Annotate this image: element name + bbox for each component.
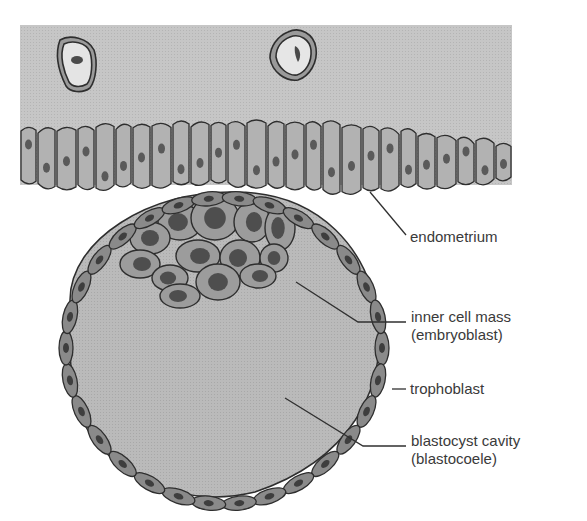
epithelial-cell <box>78 126 94 189</box>
epithelial-cell <box>323 121 340 194</box>
epithelial-cell <box>21 127 36 184</box>
trophoblast-cell <box>375 331 389 365</box>
label-endometrium: endometrium <box>410 228 498 246</box>
epithelial-cell <box>363 126 379 190</box>
epithelial-cell <box>268 121 284 188</box>
epithelial-cell <box>96 124 114 191</box>
epithelial-cell <box>247 120 266 188</box>
epithelial-cell <box>437 135 456 188</box>
epithelial-cell <box>476 138 494 185</box>
epithelial-cell <box>211 122 226 183</box>
label-trophoblast: trophoblast <box>410 380 484 398</box>
label-trophoblast-text: trophoblast <box>410 380 484 397</box>
epithelial-cell <box>401 129 416 188</box>
label-blastocyst-cavity: blastocyst cavity (blastocoele) <box>411 432 520 468</box>
epithelial-cell <box>286 122 304 190</box>
label-inner-cell-mass-line2: (embryoblast) <box>411 326 511 344</box>
epithelial-cell <box>152 123 171 188</box>
leader-line-endometrium <box>370 192 406 235</box>
label-blastocyst-cavity-line1: blastocyst cavity <box>411 432 520 450</box>
label-inner-cell-mass: inner cell mass (embryoblast) <box>411 308 511 344</box>
epithelial-cell <box>116 124 131 187</box>
inner-cell <box>240 264 276 288</box>
epithelial-cell <box>458 137 474 184</box>
epithelial-cell <box>381 128 399 191</box>
trophoblast-cell <box>59 331 73 365</box>
epithelial-cell <box>38 128 55 189</box>
epithelial-cell <box>228 122 245 188</box>
epithelial-cell <box>57 127 76 189</box>
inner-cell <box>160 284 200 308</box>
epithelial-cell <box>342 125 361 194</box>
epithelial-cell <box>191 122 209 185</box>
epithelial-cell <box>306 122 321 190</box>
epithelial-cell <box>418 133 435 189</box>
epithelial-cell <box>496 143 511 180</box>
inner-cell <box>196 264 240 300</box>
epithelial-cell <box>133 124 150 188</box>
label-endometrium-text: endometrium <box>410 228 498 245</box>
epithelial-cell <box>173 121 189 185</box>
label-blastocyst-cavity-line2: (blastocoele) <box>411 450 520 468</box>
label-inner-cell-mass-line1: inner cell mass <box>411 308 511 326</box>
